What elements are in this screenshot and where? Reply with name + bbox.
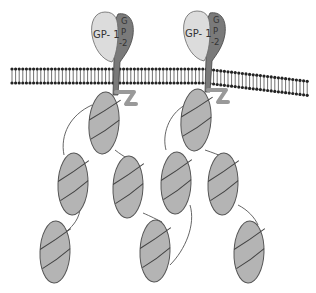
gp-complex-left: GP- 1 G P -2 [92, 12, 136, 104]
domain-center-bottom [139, 219, 171, 282]
z-anchor [208, 90, 228, 102]
gp2-label-2: -2 [211, 37, 219, 47]
domain-right-bottom [233, 220, 265, 283]
domain-left-mid-a [57, 152, 89, 215]
domain-right-mid-a [160, 151, 192, 214]
domain-left-mid-b [112, 155, 144, 218]
gp2-label-2: -2 [119, 38, 127, 48]
diagram-canvas: GP- 1 G P -2 GP- 1 G P -2 [0, 0, 316, 293]
gp2-label-g: G [213, 15, 220, 25]
gp2-label-p: P [121, 27, 126, 37]
domain-right-mid-b [207, 152, 239, 215]
intracellular-domains [39, 88, 265, 283]
gp-complex-right: GP- 1 G P -2 [184, 11, 228, 102]
domain-right-top [179, 88, 213, 152]
gp2-label-g: G [121, 16, 128, 26]
domain-left-top [87, 91, 121, 155]
lipid-membrane [10, 67, 308, 97]
domain-left-bottom [39, 220, 71, 283]
gp2-label-p: P [213, 26, 218, 36]
z-anchor [116, 92, 136, 104]
gp1-label: GP- 1 [185, 28, 212, 39]
gp1-label: GP- 1 [93, 29, 120, 40]
